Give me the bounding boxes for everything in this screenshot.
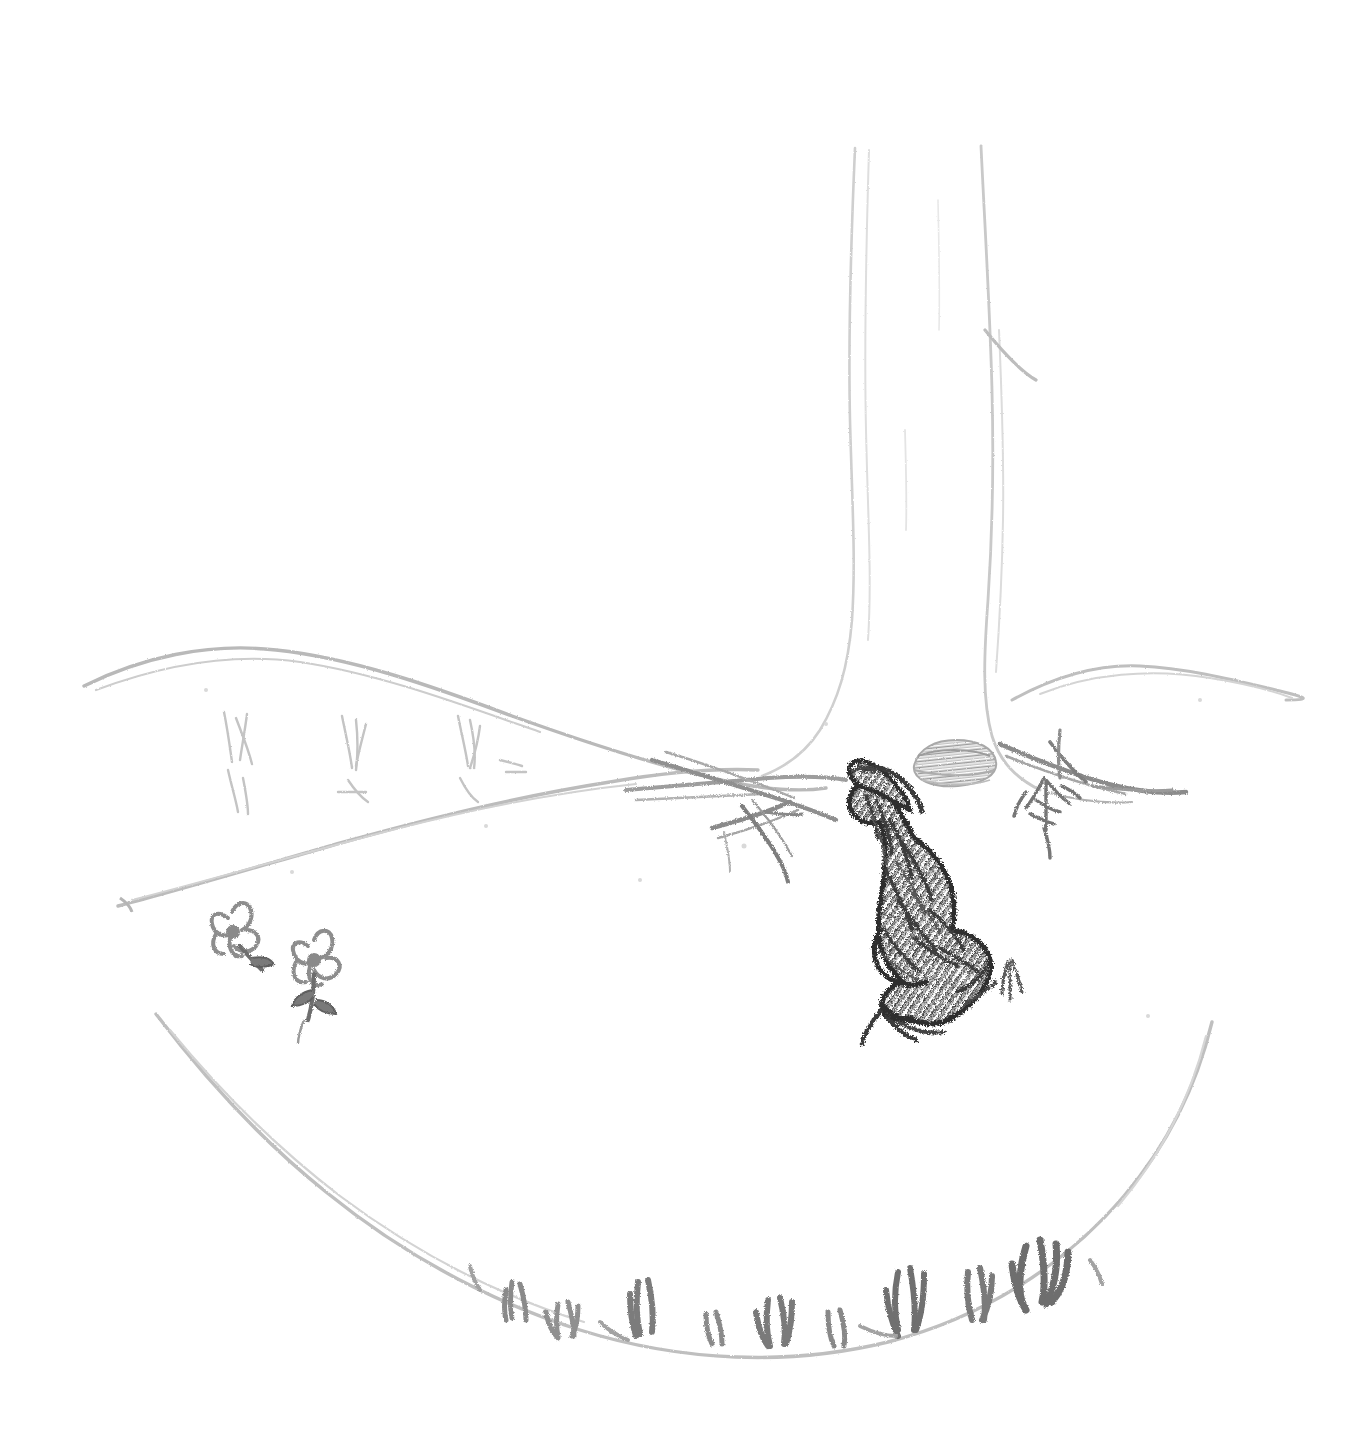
pencil-sketch — [0, 0, 1365, 1447]
drawing-canvas: Rabbit Beneath a Tree graphite pencil sk… — [0, 0, 1365, 1447]
paper-background — [0, 0, 1365, 1447]
stone — [914, 740, 996, 786]
